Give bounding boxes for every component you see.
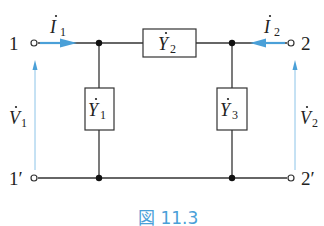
figure-caption: 図 11.3 <box>138 208 198 226</box>
phasor-dot <box>306 106 308 108</box>
terminal-1p-label: 1′ <box>9 168 23 189</box>
junction-bottom-right <box>229 175 235 181</box>
svg-text:1: 1 <box>100 108 106 122</box>
v1-label: V 1 <box>9 106 27 130</box>
terminal-2p-label: 2′ <box>301 168 315 189</box>
i1-arrowhead-icon <box>60 39 77 48</box>
terminals <box>31 40 294 181</box>
v2-arrowhead-icon <box>293 60 298 70</box>
i1-label: I 1 <box>49 15 66 39</box>
svg-text:2: 2 <box>312 116 318 130</box>
v2-label: V 2 <box>300 106 318 130</box>
terminal-2-circle <box>288 40 294 46</box>
v1-arrowhead-icon <box>33 60 38 70</box>
svg-text:I: I <box>49 17 57 37</box>
phasor-dot <box>55 15 57 17</box>
svg-text:2: 2 <box>274 25 280 39</box>
phasor-dot <box>95 98 97 100</box>
svg-text:1: 1 <box>60 25 66 39</box>
terminal-1p-circle <box>31 175 37 181</box>
junctions <box>96 40 235 181</box>
junction-top-right <box>229 40 235 46</box>
junction-bottom-left <box>96 175 102 181</box>
phasor-dot <box>15 106 17 108</box>
terminal-2p-circle <box>288 175 294 181</box>
circuit-diagram: 1 1′ 2 2′ I 1 I 2 V 1 V 2 Y <box>0 0 324 226</box>
svg-text:1: 1 <box>21 116 27 130</box>
svg-text:I: I <box>263 17 271 37</box>
svg-text:3: 3 <box>232 108 238 122</box>
phasor-dot <box>227 98 229 100</box>
wires <box>38 43 287 178</box>
terminal-2-label: 2 <box>301 33 311 54</box>
terminal-1-circle <box>31 40 37 46</box>
i2-arrowhead-icon <box>250 39 266 48</box>
junction-top-left <box>96 40 102 46</box>
terminal-1-label: 1 <box>9 33 19 54</box>
svg-text:2: 2 <box>170 42 176 56</box>
voltage-arrows <box>33 60 298 170</box>
voltage-labels: V 1 V 2 <box>9 106 318 130</box>
phasor-dot <box>165 32 167 34</box>
phasor-dot <box>269 15 271 17</box>
i2-label: I 2 <box>263 15 280 39</box>
